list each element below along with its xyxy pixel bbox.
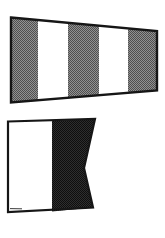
flags-canvas <box>0 0 165 238</box>
alfa-flag <box>8 119 95 212</box>
pennant-stripe-shaded-1 <box>11 15 38 107</box>
pennant-stripe-shaded-2 <box>68 15 99 107</box>
signal-flags-illustration <box>0 0 165 238</box>
answering-pennant-flag <box>11 15 157 107</box>
